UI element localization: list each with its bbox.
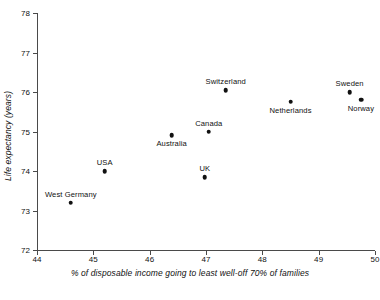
x-tick-label: 46 bbox=[145, 255, 154, 264]
y-tick-label: 73 bbox=[12, 206, 30, 215]
y-tick-label: 75 bbox=[12, 127, 30, 136]
x-tick-label: 44 bbox=[32, 255, 41, 264]
data-point[interactable] bbox=[347, 90, 352, 95]
data-point-label: Norway bbox=[348, 104, 374, 113]
data-point[interactable] bbox=[359, 98, 364, 103]
data-point[interactable] bbox=[102, 169, 107, 174]
x-axis-title: % of disposable income going to least we… bbox=[71, 268, 309, 278]
y-tick-label: 78 bbox=[12, 9, 30, 18]
y-tick-mark bbox=[33, 211, 37, 212]
y-tick-label: 76 bbox=[12, 88, 30, 97]
x-tick-label: 49 bbox=[314, 255, 323, 264]
y-tick-mark bbox=[33, 92, 37, 93]
data-point[interactable] bbox=[223, 88, 228, 93]
y-tick-label: 77 bbox=[12, 48, 30, 57]
y-tick-mark bbox=[33, 13, 37, 14]
y-tick-label: 74 bbox=[12, 167, 30, 176]
y-axis-title: Life expectancy (years) bbox=[3, 76, 13, 196]
data-point-label: USA bbox=[97, 158, 113, 167]
x-tick-label: 45 bbox=[89, 255, 98, 264]
y-axis-line bbox=[37, 13, 38, 250]
y-tick-mark bbox=[33, 132, 37, 133]
data-point-label: UK bbox=[199, 164, 210, 173]
data-point-label: Australia bbox=[156, 139, 186, 148]
x-tick-label: 47 bbox=[201, 255, 210, 264]
data-point[interactable] bbox=[169, 133, 174, 138]
data-point[interactable] bbox=[207, 129, 212, 134]
data-point[interactable] bbox=[288, 100, 293, 105]
data-point-label: West Germany bbox=[45, 190, 97, 199]
data-point[interactable] bbox=[69, 200, 74, 205]
data-point-label: Switzerland bbox=[206, 77, 246, 86]
x-tick-label: 50 bbox=[370, 255, 379, 264]
data-point-label: Sweden bbox=[336, 79, 364, 88]
y-tick-mark bbox=[33, 250, 37, 251]
scatter-plot: 44454647484950 72737475767778 West Germa… bbox=[0, 0, 380, 300]
y-tick-label: 72 bbox=[12, 246, 30, 255]
y-tick-mark bbox=[33, 171, 37, 172]
data-point-label: Canada bbox=[195, 119, 222, 128]
data-point[interactable] bbox=[203, 175, 208, 180]
x-tick-label: 48 bbox=[258, 255, 267, 264]
y-tick-mark bbox=[33, 53, 37, 54]
data-point-label: Netherlands bbox=[269, 106, 311, 115]
